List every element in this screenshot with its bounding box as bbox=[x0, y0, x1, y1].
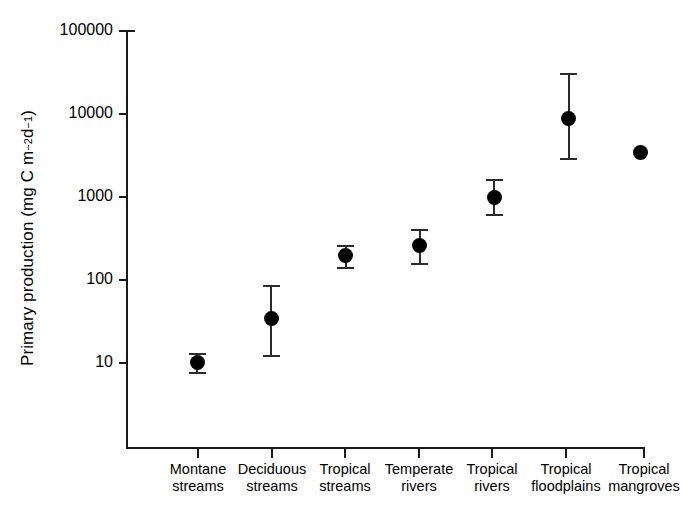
y-tick-label-100000: 100000 bbox=[3, 21, 113, 39]
y-axis-line bbox=[126, 30, 128, 449]
x-tick-3 bbox=[418, 449, 420, 458]
error-cap-lower-5 bbox=[560, 158, 577, 160]
y-tick-10 bbox=[119, 362, 128, 364]
y-tick-100 bbox=[119, 279, 128, 281]
x-tick-5 bbox=[565, 449, 567, 458]
error-cap-lower-3 bbox=[411, 263, 428, 265]
error-cap-lower-0 bbox=[189, 372, 206, 374]
y-tick-label-1000: 1000 bbox=[3, 187, 113, 205]
x-tick-label-6-line-2: mangroves bbox=[596, 478, 692, 495]
y-tick-label-10000: 10000 bbox=[3, 104, 113, 122]
y-tick-label-100: 100 bbox=[3, 270, 113, 288]
x-tick-1 bbox=[271, 449, 273, 458]
error-cap-upper-1 bbox=[263, 285, 280, 287]
data-point-4 bbox=[487, 190, 502, 205]
data-point-0 bbox=[190, 355, 205, 370]
data-point-3 bbox=[412, 238, 427, 253]
y-tick-100000 bbox=[119, 30, 135, 32]
x-tick-label-6-line-1: Tropical bbox=[596, 461, 692, 478]
x-tick-label-6: Tropical mangroves bbox=[596, 461, 692, 495]
y-tick-1000 bbox=[119, 196, 128, 198]
x-tick-6 bbox=[643, 449, 645, 458]
error-cap-upper-5 bbox=[560, 73, 577, 75]
y-axis-title: Primary production (mg C m−2 d−1) bbox=[8, 38, 48, 438]
y-tick-label-10: 10 bbox=[3, 353, 113, 371]
error-cap-upper-4 bbox=[486, 179, 503, 181]
y-tick-10000 bbox=[119, 113, 128, 115]
data-point-6 bbox=[633, 145, 648, 160]
y-axis-title-mid: d bbox=[18, 129, 38, 139]
x-tick-4 bbox=[491, 449, 493, 458]
error-cap-lower-4 bbox=[486, 214, 503, 216]
chart-figure: Primary production (mg C m−2 d−1) 100000… bbox=[0, 0, 697, 513]
x-tick-2 bbox=[344, 449, 346, 458]
error-cap-upper-2 bbox=[337, 245, 354, 247]
data-point-5 bbox=[561, 111, 576, 126]
error-cap-upper-3 bbox=[411, 229, 428, 231]
data-point-2 bbox=[338, 248, 353, 263]
error-cap-lower-1 bbox=[263, 355, 280, 357]
x-axis-line bbox=[126, 447, 645, 449]
data-point-1 bbox=[264, 311, 279, 326]
x-tick-0 bbox=[197, 449, 199, 458]
y-axis-title-prefix: Primary production (mg C m bbox=[18, 151, 38, 366]
error-cap-lower-2 bbox=[337, 267, 354, 269]
